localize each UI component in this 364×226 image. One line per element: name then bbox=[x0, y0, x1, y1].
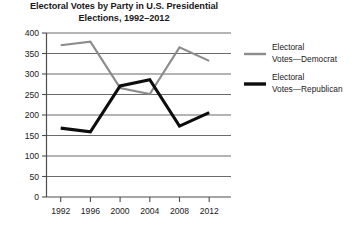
ytick-label-50: 50 bbox=[29, 172, 39, 182]
ytick-label-300: 300 bbox=[25, 69, 40, 79]
ytick-label-350: 350 bbox=[25, 49, 40, 59]
xtick-label-2012: 2012 bbox=[200, 206, 219, 216]
xtick-label-1996: 1996 bbox=[81, 206, 100, 216]
xtick-label-1992: 1992 bbox=[51, 206, 70, 216]
legend-label-democrat-line-1: Electoral bbox=[272, 42, 304, 52]
legend-label-republican-line-2: Votes—Republican bbox=[272, 84, 343, 94]
ytick-label-200: 200 bbox=[25, 110, 40, 120]
line-chart-svg: 400 350 300 250 200 150 100 50 0 bbox=[0, 0, 364, 226]
xtick-label-2004: 2004 bbox=[140, 206, 159, 216]
x-axis-ticks bbox=[61, 197, 210, 202]
plot-area: 400 350 300 250 200 150 100 50 0 bbox=[0, 0, 364, 226]
ytick-label-100: 100 bbox=[25, 151, 40, 161]
xtick-label-2000: 2000 bbox=[111, 206, 130, 216]
ytick-label-150: 150 bbox=[25, 131, 40, 141]
series-line-republican bbox=[61, 80, 210, 132]
gridlines bbox=[47, 33, 232, 177]
legend-label-democrat-line-2: Votes—Democrat bbox=[272, 54, 338, 64]
chart-figure: Electoral Votes by Party in U.S. Preside… bbox=[0, 0, 364, 226]
ytick-label-250: 250 bbox=[25, 90, 40, 100]
y-axis-ticks bbox=[42, 33, 47, 197]
ytick-label-400: 400 bbox=[25, 28, 40, 38]
xtick-label-2008: 2008 bbox=[170, 206, 189, 216]
x-axis-tick-labels: 1992 1996 2000 2004 2008 2012 bbox=[51, 206, 219, 216]
y-axis-tick-labels: 400 350 300 250 200 150 100 50 0 bbox=[25, 28, 40, 202]
series-line-democrat bbox=[61, 42, 210, 94]
legend-label-republican-line-1: Electoral bbox=[272, 72, 304, 82]
chart-legend: Electoral Votes—Democrat Electoral Votes… bbox=[244, 42, 343, 94]
ytick-label-0: 0 bbox=[34, 192, 39, 202]
